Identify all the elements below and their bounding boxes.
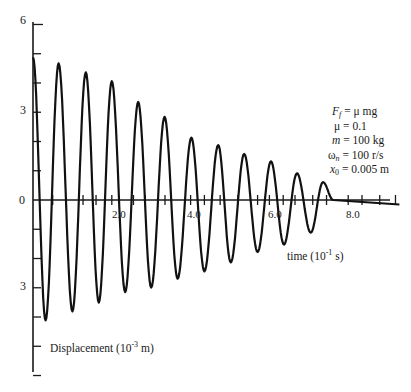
y-tick-label-3: 3 (20, 104, 26, 117)
x-tick-label-2: 2.0 (112, 208, 126, 221)
y-tick-label-6: 6 (20, 14, 26, 27)
y-axis-label: Displacement (10-3 m) (50, 342, 154, 355)
param-friction-force: Ff = μ mg (328, 104, 389, 119)
param-mu: μ = 0.1 (328, 119, 389, 134)
param-mass: m = 100 kg (328, 133, 389, 148)
y-tick-label-neg3: 3 (20, 280, 26, 293)
x-tick-label-4: 4.0 (187, 208, 201, 221)
parameter-annotations: Ff = μ mg μ = 0.1 m = 100 kg ωn = 100 r/… (328, 104, 389, 177)
x-tick-label-8: 8.0 (346, 208, 360, 221)
x-tick-label-6: 6.0 (268, 208, 282, 221)
param-initial-displacement: x0 = 0.005 m (328, 162, 389, 177)
x-axis-label: time (10-1 s) (287, 250, 344, 263)
param-natural-frequency: ωn = 100 r/s (328, 148, 389, 163)
displacement-curve (33, 57, 399, 320)
vibration-plot (0, 0, 411, 392)
y-tick-label-0: 0 (19, 194, 25, 207)
